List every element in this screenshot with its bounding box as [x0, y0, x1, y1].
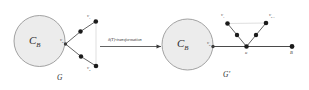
right-vertex-B-label: B	[290, 51, 293, 56]
left-graph-caption: G	[57, 74, 62, 82]
right-vertex-apex-u	[244, 44, 249, 49]
right-edge-mid-right-vk	[256, 23, 266, 35]
left-vertex-v0-label: v0	[60, 38, 63, 44]
left-vertex-v2	[94, 64, 99, 69]
right-edge-tip-chord	[228, 23, 267, 24]
left-vertex-mid-lower	[79, 54, 83, 58]
right-vertex-v0	[211, 45, 214, 48]
figure-canvas	[0, 0, 309, 90]
right-vertex-apex-label: u	[245, 51, 247, 56]
left-vertex-v0	[64, 42, 67, 45]
right-vertex-v0-label: v0	[207, 41, 210, 47]
right-vertex-vk-label: vk-1	[269, 13, 275, 19]
left-vertex-mid-upper	[78, 29, 82, 33]
left-vertex-v1	[94, 19, 99, 24]
right-cluster-label: CB	[177, 38, 189, 52]
left-cluster-label: CB	[29, 35, 41, 49]
left-edge-mid-upper-v1	[81, 22, 96, 32]
figure-delta-t-transformation: CB v0 v1 v2 G δ(T)-transformation CB v0 …	[0, 0, 309, 90]
right-vertex-mid-right	[254, 33, 258, 37]
right-vertex-B	[290, 44, 295, 49]
right-vertex-vk	[264, 21, 269, 26]
right-vertex-v1-label: v1	[221, 13, 224, 19]
left-edge-v0-mid-lower	[66, 44, 82, 57]
left-graph-group	[14, 16, 98, 69]
right-vertex-v1	[225, 21, 230, 26]
transformation-arrow-group	[100, 45, 161, 49]
left-vertex-v2-label: v2	[87, 66, 90, 72]
left-edge-v0-mid-upper	[66, 32, 81, 45]
transformation-arrow-label: δ(T)-transformation	[108, 38, 142, 42]
left-vertex-v1-label: v1	[87, 14, 90, 20]
right-graph-caption: G'	[223, 71, 230, 79]
right-vertex-mid-left	[235, 33, 239, 37]
transformation-arrow-head	[157, 45, 162, 49]
